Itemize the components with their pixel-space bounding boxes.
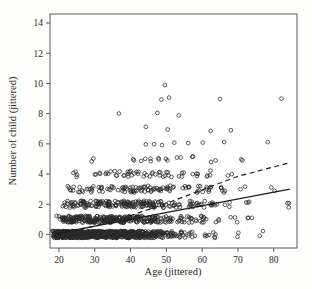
x-tick-label: 70 xyxy=(233,255,243,265)
x-axis-title: Age (jittered) xyxy=(145,266,202,278)
y-tick-label: 8 xyxy=(38,109,43,119)
x-tick-label: 60 xyxy=(197,255,207,265)
y-tick-label: 12 xyxy=(34,49,44,59)
x-tick-label: 40 xyxy=(126,255,136,265)
y-tick-label: 2 xyxy=(38,200,43,210)
scatter-plot-figure: 02468101214 20304050607080 Age (jittered… xyxy=(0,0,312,289)
y-tick-label: 0 xyxy=(38,230,43,240)
y-tick-label: 4 xyxy=(38,169,43,179)
y-tick-label: 14 xyxy=(34,18,44,28)
x-tick-label: 20 xyxy=(54,255,64,265)
plot-canvas: 02468101214 20304050607080 Age (jittered… xyxy=(0,0,312,289)
y-tick-label: 6 xyxy=(38,139,43,149)
x-tick-label: 30 xyxy=(90,255,100,265)
x-tick-label: 80 xyxy=(269,255,279,265)
y-axis-title: Number of child (jittered) xyxy=(7,76,19,185)
y-tick-label: 10 xyxy=(34,79,44,89)
x-tick-label: 50 xyxy=(162,255,172,265)
plot-area-background xyxy=(50,14,297,248)
